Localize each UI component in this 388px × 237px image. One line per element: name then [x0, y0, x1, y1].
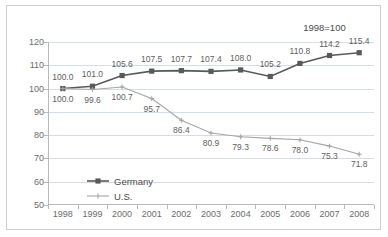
data-point-label: 71.8	[351, 159, 368, 169]
legend-label: U.S.	[114, 191, 132, 202]
x-axis-tick-label: 2002	[171, 209, 191, 219]
x-axis-tick-label: 2008	[349, 209, 369, 219]
data-point-marker	[120, 85, 125, 90]
data-point-label: 105.2	[260, 59, 281, 69]
data-point-marker	[357, 152, 362, 157]
y-axis-tick-label: 70	[34, 153, 44, 163]
data-point-label: 78.6	[262, 143, 279, 153]
chart-frame: 5060708090100110120 100.0101.0105.6107.5…	[6, 5, 381, 230]
legend-item-germany[interactable]: Germany	[86, 174, 153, 189]
y-axis-tick-label: 110	[30, 60, 44, 70]
data-point-marker	[298, 137, 303, 142]
data-point-marker	[238, 67, 243, 72]
legend-swatch-icon	[86, 191, 110, 201]
x-axis-tick-label: 2004	[231, 209, 251, 219]
legend-label: Germany	[114, 176, 153, 187]
y-axis-tick-label: 60	[34, 177, 44, 187]
data-point-label: 107.7	[171, 54, 192, 64]
data-point-marker	[149, 69, 154, 74]
data-point-marker	[297, 61, 302, 66]
data-point-label: 114.2	[319, 39, 340, 49]
data-point-label: 115.4	[349, 36, 370, 46]
x-axis-tick-label: 2005	[260, 209, 280, 219]
x-axis-tick-label: 2001	[142, 209, 162, 219]
data-point-label: 86.4	[173, 125, 190, 135]
data-point-marker	[268, 74, 273, 79]
y-axis-tick-label: 120	[29, 37, 44, 47]
data-point-marker	[119, 73, 124, 78]
y-axis-tick-label: 80	[34, 130, 44, 140]
data-point-label: 78.0	[292, 145, 309, 155]
chart-legend: GermanyU.S.	[86, 174, 153, 204]
data-point-label: 79.3	[232, 142, 249, 152]
data-point-label: 105.6	[111, 59, 132, 69]
x-axis-tick-label: 1998	[53, 209, 73, 219]
x-axis-tick-label: 1999	[82, 209, 102, 219]
x-axis-tick-label: 2006	[290, 209, 310, 219]
data-point-label: 100.0	[52, 94, 73, 104]
data-point-label: 100.7	[111, 92, 132, 102]
data-point-label: 107.5	[141, 54, 162, 64]
data-point-label: 80.9	[203, 138, 220, 148]
x-axis-tick-label: 2000	[112, 209, 132, 219]
plot-area: 100.0101.0105.6107.5107.7107.4108.0105.2…	[48, 42, 374, 205]
data-point-marker	[238, 134, 243, 139]
data-point-label: 100.0	[52, 72, 73, 82]
data-point-marker	[327, 53, 332, 58]
x-axis-tick	[374, 205, 375, 209]
y-axis-tick-label: 50	[34, 200, 44, 210]
data-point-marker	[327, 144, 332, 149]
data-point-label: 101.0	[82, 69, 103, 79]
y-axis-tick-label: 90	[34, 107, 44, 117]
index-annotation: 1998=100	[303, 22, 346, 33]
y-axis-labels: 5060708090100110120	[13, 42, 44, 205]
data-point-marker	[268, 136, 273, 141]
data-point-label: 99.6	[84, 95, 101, 105]
x-axis-tick-label: 2007	[320, 209, 340, 219]
data-point-marker	[208, 69, 213, 74]
data-point-label: 75.3	[321, 151, 338, 161]
y-axis-tick-label: 100	[29, 84, 44, 94]
data-point-marker	[357, 50, 362, 55]
data-point-marker	[179, 68, 184, 73]
data-point-label: 107.4	[200, 54, 221, 64]
legend-item-us[interactable]: U.S.	[86, 189, 153, 204]
legend-swatch-icon	[86, 176, 110, 186]
data-point-label: 108.0	[230, 53, 251, 63]
data-point-marker	[209, 131, 214, 136]
x-axis-tick-label: 2003	[201, 209, 221, 219]
data-point-label: 110.8	[290, 46, 311, 56]
x-axis-labels: 1998199920002001200220032004200520062007…	[48, 209, 374, 225]
data-point-label: 95.7	[143, 104, 160, 114]
